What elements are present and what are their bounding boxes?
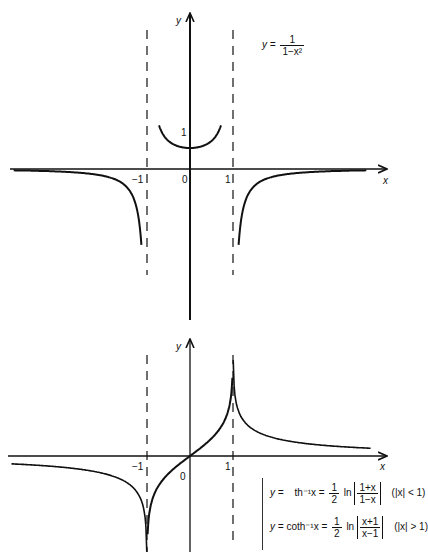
bottom-tick-one: 1	[225, 461, 231, 472]
bottom-tick-neg-one: −1	[132, 461, 144, 472]
formula-arcoth-condition: (|x| > 1)	[394, 521, 428, 532]
bottom-x-axis-label: x	[379, 461, 386, 472]
top-curve-right	[239, 170, 367, 245]
formula-arcoth-arg: x+1 x−1	[360, 516, 380, 539]
bottom-curve-arcoth-left	[12, 464, 147, 552]
formula-brace	[262, 478, 267, 550]
top-y-axis-label: y	[175, 15, 182, 26]
top-formula-lhs: y =	[262, 39, 276, 50]
formula-artanh-func: th⁻¹x =	[294, 487, 324, 498]
top-formula-denominator: 1−x²	[280, 46, 304, 57]
formula-artanh-coef: 1 2	[329, 482, 339, 505]
bottom-tick-zero: 0	[180, 471, 186, 482]
formula-arcoth: y = coth⁻¹x = 1 2 ln x+1 x−1 (|x| > 1)	[270, 516, 428, 539]
formula-arcoth-ln: ln	[346, 521, 354, 532]
formula-artanh-condition: (|x| < 1)	[392, 487, 426, 498]
formula-artanh-lhs: y =	[270, 487, 284, 498]
top-formula-fraction: 1 1−x²	[280, 34, 304, 57]
formula-arcoth-arg-num: x+1	[360, 516, 380, 528]
top-tick-one: 1	[225, 174, 231, 185]
top-formula-numerator: 1	[280, 34, 304, 46]
formula-artanh-arg-den: 1−x	[357, 494, 377, 505]
top-formula: y = 1 1−x²	[262, 34, 306, 57]
top-tick-zero: 0	[182, 174, 188, 185]
top-chart: y x −1 0 1 1	[10, 14, 389, 320]
formula-arcoth-func: coth⁻¹x =	[286, 521, 327, 532]
top-tick-y-one: 1	[181, 127, 187, 138]
formula-arcoth-bracket: x+1 x−1	[357, 516, 383, 539]
formula-arcoth-coef-den: 2	[332, 528, 342, 539]
bottom-y-axis-label: y	[175, 341, 182, 352]
formula-artanh-coef-num: 1	[329, 482, 339, 494]
formula-arcoth-coef-num: 1	[332, 516, 342, 528]
formula-artanh-bracket: 1+x 1−x	[354, 482, 380, 505]
formula-artanh-arg-num: 1+x	[357, 482, 377, 494]
formula-artanh: y = th⁻¹x = 1 2 ln 1+x 1−x (|x| < 1)	[270, 482, 425, 505]
formula-artanh-arg: 1+x 1−x	[357, 482, 377, 505]
bottom-curve-arcoth-right	[233, 360, 370, 448]
formula-artanh-ln: ln	[344, 487, 352, 498]
formula-arcoth-lhs: y =	[270, 521, 284, 532]
top-tick-neg-one: −1	[132, 174, 144, 185]
formula-arcoth-arg-den: x−1	[360, 528, 380, 539]
formula-artanh-coef-den: 2	[329, 494, 339, 505]
formula-arcoth-coef: 1 2	[332, 516, 342, 539]
top-curve-left	[14, 170, 142, 245]
top-x-axis-label: x	[382, 175, 389, 186]
